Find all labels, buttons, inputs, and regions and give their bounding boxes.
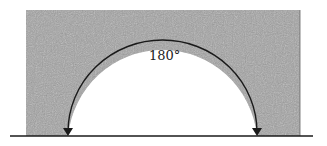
angle-label: 180° (149, 48, 180, 63)
shaded-region (26, 10, 300, 136)
straight-angle-diagram: 180° (0, 0, 327, 146)
